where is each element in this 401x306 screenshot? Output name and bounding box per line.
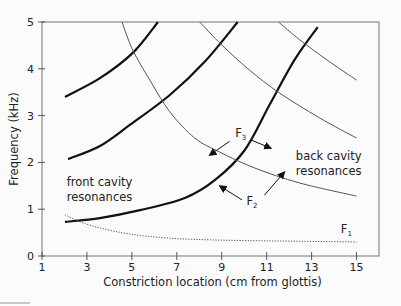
x-tick-label: 5	[128, 261, 135, 274]
x-tick-label: 3	[83, 261, 90, 274]
corner-rule	[0, 302, 30, 304]
F2-arrow	[219, 186, 241, 200]
front-label: resonances	[67, 190, 133, 204]
series-line-6	[65, 215, 357, 242]
y-tick-label: 5	[27, 16, 34, 29]
F3-label: F3	[235, 126, 246, 142]
y-tick-label: 1	[27, 203, 34, 216]
x-tick-label: 7	[173, 261, 180, 274]
plot-frame	[42, 22, 379, 256]
y-tick-label: 0	[27, 250, 34, 263]
x-tick-label: 15	[350, 261, 364, 274]
F3-arrow	[251, 140, 271, 148]
series-line-1	[68, 22, 238, 159]
y-axis-title: Frequency (kHz)	[7, 92, 21, 185]
x-axis: 13579111315	[39, 252, 364, 274]
x-tick-label: 11	[260, 261, 274, 274]
back-label: resonances	[296, 164, 362, 178]
formant-chart: 13579111315 012345 Constriction location…	[0, 0, 401, 306]
F2-label: F2	[246, 194, 257, 210]
y-tick-label: 4	[27, 63, 34, 76]
x-tick-label: 9	[218, 261, 225, 274]
x-tick-label: 13	[305, 261, 319, 274]
y-tick-label: 2	[27, 156, 34, 169]
front-label: front cavity	[67, 175, 133, 189]
x-tick-label: 1	[39, 261, 46, 274]
curves	[65, 22, 357, 242]
y-tick-label: 3	[27, 110, 34, 123]
F1-label: F1	[341, 222, 352, 238]
series-line-5	[279, 22, 357, 80]
series-line-2	[65, 22, 158, 97]
x-axis-title: Constriction location (cm from glottis)	[103, 275, 321, 289]
back-label: back cavity	[296, 149, 362, 163]
